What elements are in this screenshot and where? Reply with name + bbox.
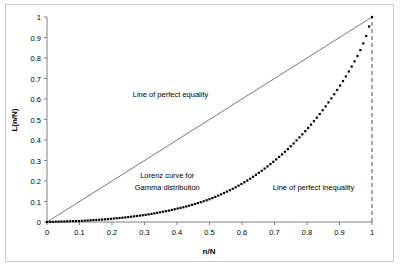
lorenz-data-point [327,101,329,103]
lorenz-data-point [298,136,300,138]
y-tick-label: 0.6 [31,95,41,104]
lorenz-data-point [162,211,164,213]
lorenz-data-point [272,161,274,163]
lorenz-annotation-line1: Lorenz curve for [140,171,195,180]
lorenz-data-point [205,199,207,201]
lorenz-data-point [284,151,286,153]
lorenz-data-point [301,133,303,135]
y-axis-title: L(n/N) [10,108,19,131]
lorenz-data-point [153,212,155,214]
lorenz-data-point [243,181,245,183]
lorenz-data-point [293,142,295,144]
lorenz-data-point [359,49,361,51]
lorenz-data-point [98,219,100,221]
x-axis-title: n/N [203,247,216,256]
lorenz-data-point [322,109,324,111]
lorenz-annotation-line2: Gamma distribution [135,183,200,192]
lorenz-data-point [84,220,86,222]
lorenz-data-point [118,217,120,219]
lorenz-data-point [107,218,109,220]
lorenz-data-point [275,158,277,160]
lorenz-data-point [46,221,48,223]
lorenz-data-point [145,214,147,216]
lorenz-data-point [110,218,112,220]
x-tick-label: 0.5 [204,228,214,237]
lorenz-data-point [133,215,135,217]
lorenz-data-point [72,220,74,222]
lorenz-data-point [165,210,167,212]
x-axis-tick-labels: 00.10.20.30.40.50.60.70.80.91 [45,228,374,237]
lorenz-data-point [95,219,97,221]
lorenz-data-point [264,167,266,169]
x-tick-label: 0.9 [334,228,344,237]
lorenz-data-point [336,89,338,91]
lorenz-data-point [365,35,367,37]
inequality-annotation: Line of perfect inequality [273,183,355,192]
lorenz-data-point [89,219,91,221]
y-tick-label: 0.3 [31,157,41,166]
chart-figure: 00.10.20.30.40.50.60.70.80.91 00.10.20.3… [0,0,402,269]
lorenz-data-point [139,215,141,217]
lorenz-data-point [229,189,231,191]
lorenz-data-point [69,220,71,222]
lorenz-data-point [208,198,210,200]
lorenz-data-point [255,174,257,176]
x-tick-label: 0 [45,228,49,237]
lorenz-data-point [249,178,251,180]
y-tick-label: 0 [37,218,41,227]
lorenz-data-point [147,213,149,215]
lorenz-data-point [116,217,118,219]
lorenz-data-point [174,208,176,210]
lorenz-data-point [176,207,178,209]
lorenz-data-point [75,220,77,222]
x-tick-label: 0.7 [269,228,279,237]
lorenz-data-point [324,105,326,107]
lorenz-data-point [179,207,181,209]
lorenz-data-point [252,176,254,178]
lorenz-data-point [237,185,239,187]
lorenz-data-point [319,113,321,115]
lorenz-data-point [310,123,312,125]
lorenz-data-point [295,139,297,141]
y-tick-label: 0.1 [31,198,41,207]
lorenz-data-point [171,209,173,211]
x-tick-label: 0.8 [302,228,312,237]
lorenz-data-point [266,165,268,167]
lorenz-data-point [150,213,152,215]
lorenz-data-point [217,195,219,197]
lorenz-data-point [188,205,190,207]
lorenz-data-point [60,220,62,222]
lorenz-data-point [87,219,89,221]
lorenz-data-point [159,211,161,213]
lorenz-data-point [211,197,213,199]
lorenz-data-point [333,93,335,95]
lorenz-data-point [49,221,51,223]
lorenz-data-point [351,65,353,67]
lorenz-data-point [104,218,106,220]
lorenz-data-point [101,218,103,220]
equality-annotation: Line of perfect equality [133,90,209,99]
lorenz-data-point [368,25,370,27]
y-tick-label: 0.8 [31,54,41,63]
x-tick-label: 0.4 [172,228,182,237]
lorenz-curve-plot: 00.10.20.30.40.50.60.70.80.91 00.10.20.3… [0,0,402,269]
lorenz-data-point [55,221,57,223]
lorenz-data-point [290,145,292,147]
lorenz-data-point [330,97,332,99]
x-tick-label: 0.1 [74,228,84,237]
lorenz-data-point [127,216,129,218]
lorenz-data-point [316,117,318,119]
lorenz-data-point [182,206,184,208]
lorenz-data-point [345,75,347,77]
lorenz-data-point [124,216,126,218]
lorenz-data-point [92,219,94,221]
x-tick-label: 0.3 [139,228,149,237]
y-tick-label: 0.9 [31,34,41,43]
lorenz-data-point [287,148,289,150]
lorenz-data-point [304,130,306,132]
lorenz-data-point [197,202,199,204]
lorenz-data-point [113,217,115,219]
lorenz-data-point [281,153,283,155]
lorenz-data-point [58,221,60,223]
lorenz-data-point [214,196,216,198]
